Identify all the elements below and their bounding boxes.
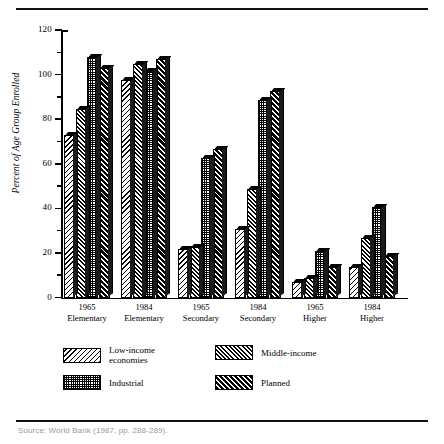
y-axis-tick-label: 20 — [6, 248, 52, 257]
bar-side-face — [393, 253, 398, 297]
bar-group — [292, 30, 338, 298]
x-axis-group-label: 1984Higher — [335, 302, 409, 324]
legend-label-line2: economies — [109, 355, 155, 365]
bar-side-face — [187, 246, 192, 297]
bar-side-face — [199, 244, 204, 297]
legend-label-line1: Middle-income — [261, 348, 317, 358]
legend-swatch — [63, 348, 101, 363]
bar-side-face — [358, 264, 363, 297]
legend-label-line1: Industrial — [109, 378, 144, 388]
bar-side-face — [142, 61, 147, 297]
y-axis-tick-label: 80 — [6, 114, 52, 123]
legend-label-line1: Planned — [261, 378, 290, 388]
bar-side-face — [313, 275, 318, 297]
x-axis-year-label: 1984 — [335, 302, 409, 313]
bar-side-face — [96, 54, 101, 297]
bar-side-face — [244, 226, 249, 297]
legend-item[interactable]: Middle-income — [215, 345, 317, 360]
bar-side-face — [336, 264, 341, 297]
figure-container: Percent of Age Group Enrolled 0204060801… — [0, 0, 444, 444]
bottom-divider-rule — [16, 420, 428, 422]
legend-item[interactable]: Industrial — [63, 375, 144, 390]
bar — [292, 282, 303, 298]
plot-area — [62, 30, 408, 298]
y-axis-tick-label: 120 — [6, 25, 52, 34]
bar-side-face — [256, 186, 261, 297]
y-axis-labels: 020406080100120 — [0, 0, 52, 444]
bar-group — [64, 30, 110, 298]
bar-group — [178, 30, 224, 298]
bar-group — [121, 30, 167, 298]
x-axis-level-label: Higher — [335, 313, 409, 324]
bar — [178, 249, 189, 298]
bar-side-face — [108, 65, 113, 297]
bar-side-face — [130, 77, 135, 297]
x-axis-labels: 1965Elementary1984Elementary1965Secondar… — [0, 302, 444, 332]
legend-label-line1: Low-income — [109, 345, 155, 355]
bar-side-face — [165, 57, 170, 297]
legend-label: Middle-income — [261, 348, 317, 358]
figure-source-caption: Source: World Bank (1987, pp. 288-289). — [18, 426, 168, 435]
bar-side-face — [324, 248, 329, 297]
bar-side-face — [279, 88, 284, 297]
bar — [349, 267, 360, 298]
bar-side-face — [222, 146, 227, 297]
legend-swatch — [215, 345, 253, 360]
legend-item[interactable]: Planned — [215, 375, 290, 390]
top-divider-rule — [16, 8, 428, 10]
bar-side-face — [153, 68, 158, 297]
legend-label: Planned — [261, 378, 290, 388]
bar — [235, 229, 246, 298]
bar-side-face — [73, 132, 78, 297]
bar-group — [349, 30, 395, 298]
legend-swatch — [63, 375, 101, 390]
bar-side-face — [85, 106, 90, 297]
y-axis-tick-label: 40 — [6, 203, 52, 212]
chart-legend: Low-incomeeconomiesMiddle-incomeIndustri… — [63, 345, 353, 399]
bar-side-face — [267, 97, 272, 297]
legend-label: Low-incomeeconomies — [109, 345, 155, 365]
y-axis-tick-label: 60 — [6, 159, 52, 168]
bar-group — [235, 30, 281, 298]
y-axis-tick-label: 100 — [6, 70, 52, 79]
bar — [64, 135, 75, 298]
bar-side-face — [210, 155, 215, 297]
bar — [121, 80, 132, 298]
legend-item[interactable]: Low-incomeeconomies — [63, 345, 155, 365]
bar-side-face — [381, 204, 386, 297]
bar-side-face — [370, 235, 375, 297]
y-axis-tick-label: 0 — [6, 293, 52, 302]
legend-swatch — [215, 375, 253, 390]
legend-label: Industrial — [109, 378, 144, 388]
